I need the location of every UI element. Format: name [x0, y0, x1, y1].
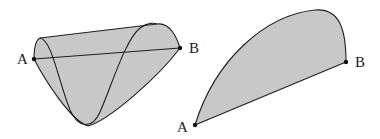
point-a-dot — [32, 57, 36, 61]
diagram-canvas: A B A B — [0, 0, 380, 139]
right-region-fill — [195, 10, 346, 125]
label-a-left: A — [17, 51, 28, 67]
point-b-dot-right — [344, 60, 348, 64]
label-b-left: B — [189, 40, 199, 56]
label-a-right: A — [177, 119, 188, 135]
left-figure: A B — [17, 23, 199, 126]
right-figure: A B — [177, 10, 365, 135]
left-surface-fill — [34, 24, 180, 126]
label-b-right: B — [355, 54, 365, 70]
point-b-dot — [178, 46, 182, 50]
point-a-dot-right — [193, 123, 197, 127]
